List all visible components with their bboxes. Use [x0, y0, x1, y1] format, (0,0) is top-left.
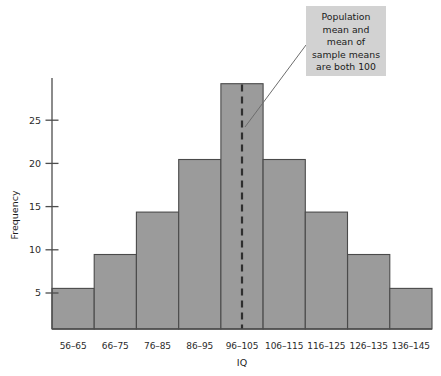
y-tick-label-15: 15 [29, 201, 41, 212]
y-tick-label-10: 10 [29, 244, 41, 255]
x-tick-label-3: 86–95 [186, 341, 213, 351]
x-tick-label-2: 76–85 [144, 341, 171, 351]
callout-line-4: sample means [312, 49, 380, 60]
x-tick-label-0: 56–65 [60, 341, 87, 351]
bar-66-75 [94, 255, 136, 330]
bar-126-135 [348, 255, 390, 330]
bar-56-65 [52, 288, 94, 329]
callout-line-3: mean of [327, 36, 366, 47]
x-tick-label-6: 116–125 [307, 341, 345, 351]
x-tick-label-5: 106–115 [265, 341, 303, 351]
y-tick-label-25: 25 [29, 115, 41, 126]
bar-76-85 [136, 212, 178, 329]
chart-canvas: 5 10 15 20 25 Frequency 56–65 66–75 76–8… [0, 0, 441, 376]
y-axis-title: Frequency [9, 190, 20, 239]
y-tick-labels: 5 10 15 20 25 [29, 115, 41, 299]
x-axis-title: IQ [237, 357, 247, 368]
x-tick-label-1: 66–75 [102, 341, 129, 351]
mean-callout: Population mean and mean of sample means… [306, 6, 386, 76]
y-tick-label-5: 5 [35, 287, 41, 298]
callout-line-2: mean and [323, 24, 370, 35]
x-tick-label-4: 96–105 [226, 341, 259, 351]
bar-86-95 [179, 160, 221, 330]
x-tick-labels: 56–65 66–75 76–85 86–95 96–105 106–115 1… [60, 341, 430, 351]
x-tick-label-7: 126–135 [350, 341, 388, 351]
callout-line-5: are both 100 [316, 61, 376, 72]
histogram-figure: 5 10 15 20 25 Frequency 56–65 66–75 76–8… [0, 0, 441, 376]
bar-136-145 [390, 288, 432, 329]
bar-106-115 [263, 160, 305, 330]
callout-line-1: Population [322, 11, 371, 22]
bar-116-125 [305, 212, 347, 329]
x-tick-label-8: 136–145 [392, 341, 430, 351]
y-tick-label-20: 20 [29, 158, 41, 169]
